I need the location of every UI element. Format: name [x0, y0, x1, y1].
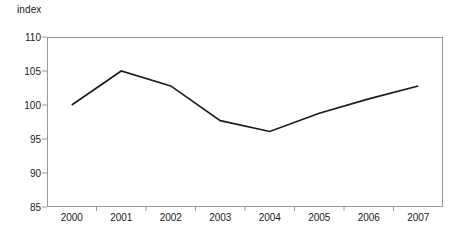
x-tick-label: 2000: [61, 212, 83, 223]
line-chart: index 859095100105110 200020012002200320…: [0, 0, 466, 238]
x-tick-label: 2001: [110, 212, 132, 223]
x-tick-label: 2007: [407, 212, 429, 223]
x-tick-label: 2004: [259, 212, 281, 223]
x-axis-labels: 20002001200220032004200520062007: [0, 0, 466, 238]
x-tick-label: 2006: [358, 212, 380, 223]
x-tick-label: 2003: [209, 212, 231, 223]
x-tick-label: 2005: [308, 212, 330, 223]
x-tick-label: 2002: [160, 212, 182, 223]
